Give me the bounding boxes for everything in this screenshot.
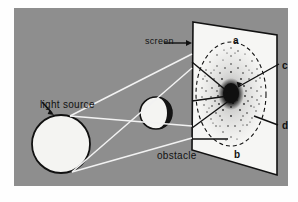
diffraction-pattern [196,42,266,146]
label-obstacle: obstacle [157,150,197,161]
label-d: d [282,120,288,131]
label-b: b [234,149,240,160]
label-screen: screen [145,36,174,46]
diagram-svg [14,8,288,186]
label-light-source: light source [40,99,95,110]
diagram-area: light source obstacle screen a b c d [14,8,288,186]
label-c: c [282,60,288,71]
label-a: a [233,35,239,46]
figure-canvas: light source obstacle screen a b c d [0,0,298,202]
